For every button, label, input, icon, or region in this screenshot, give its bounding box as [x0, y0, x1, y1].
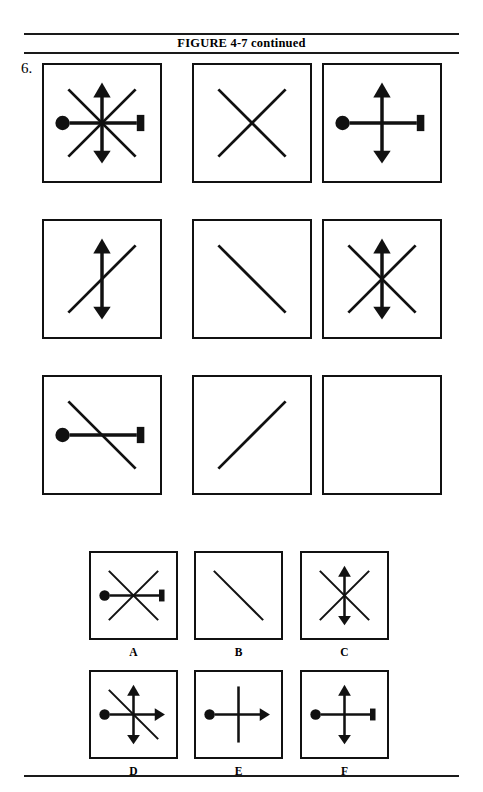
arrowhead-up: [93, 82, 110, 97]
option-c-label: C: [300, 645, 389, 659]
arrowhead-down: [373, 307, 390, 320]
diagonal-slash-line: [218, 401, 285, 468]
arrowhead-up: [338, 566, 351, 577]
circle-terminal: [99, 590, 110, 601]
circle-terminal: [99, 709, 110, 720]
circle-terminal: [335, 116, 349, 130]
header-rule-bottom: [24, 52, 459, 54]
option-f[interactable]: [300, 670, 389, 759]
option-c[interactable]: [300, 551, 389, 640]
matrix-cell-r1c1[interactable]: [42, 63, 162, 183]
option-b-label: B: [194, 645, 283, 659]
matrix-cell-r2c2[interactable]: [192, 219, 312, 339]
arrowhead-down: [338, 735, 351, 744]
arrowhead-down: [93, 151, 110, 164]
arrowhead-down: [93, 307, 110, 320]
option-d[interactable]: [89, 670, 178, 759]
matrix-cell-r1c2[interactable]: [192, 63, 312, 183]
bar-terminal: [137, 115, 145, 131]
arrowhead-down: [127, 735, 140, 744]
circle-terminal: [204, 709, 215, 720]
arrowhead-right: [260, 708, 270, 721]
matrix-cell-r3c1[interactable]: [42, 375, 162, 495]
diagonal-backslash-line: [218, 245, 285, 312]
bar-terminal: [417, 115, 425, 131]
page-title: FIGURE 4-7 continued: [24, 34, 459, 52]
arrowhead-up: [127, 685, 140, 696]
matrix-cell-r1c3[interactable]: [322, 63, 442, 183]
footer-rule: [24, 775, 459, 777]
matrix-cell-r2c1[interactable]: [42, 219, 162, 339]
matrix-cell-r2c3[interactable]: [322, 219, 442, 339]
item-number: 6.: [21, 60, 32, 76]
circle-terminal: [55, 428, 69, 442]
bar-terminal: [370, 709, 376, 721]
circle-terminal: [310, 709, 321, 720]
arrowhead-up: [338, 685, 351, 696]
option-a-label: A: [89, 645, 178, 659]
bar-terminal: [137, 427, 145, 443]
bar-terminal: [159, 590, 165, 602]
arrowhead-down: [373, 151, 390, 164]
arrowhead-up: [93, 238, 110, 253]
matrix-cell-r3c3[interactable]: [322, 375, 442, 495]
arrowhead-down: [338, 616, 351, 625]
circle-terminal: [55, 116, 69, 130]
arrowhead-up: [373, 82, 390, 97]
option-e[interactable]: [194, 670, 283, 759]
matrix-cell-r3c2[interactable]: [192, 375, 312, 495]
figure-page: FIGURE 4-7 continued 6. ABCDEF: [0, 0, 483, 792]
option-a[interactable]: [89, 551, 178, 640]
arrowhead-right: [155, 708, 165, 721]
diagonal-backslash-line: [214, 571, 263, 620]
option-b[interactable]: [194, 551, 283, 640]
arrowhead-up: [373, 238, 390, 253]
